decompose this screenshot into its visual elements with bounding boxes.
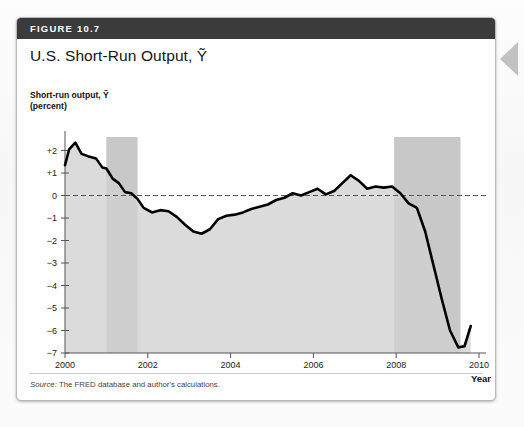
x-tick-label: 2004: [221, 360, 241, 370]
source-note: Source: The FRED database and author's c…: [30, 380, 220, 389]
x-tick-label: 2002: [138, 360, 158, 370]
x-tick-label: 2006: [303, 360, 323, 370]
figure-container: FIGURE 10.7 U.S. Short-Run Output, Ỹ Sho…: [16, 17, 496, 401]
x-axis-title: Year: [471, 373, 491, 384]
x-tick-label: 2000: [55, 360, 75, 370]
line-chart: +2+10−1−2−3−4−5−6−7200020022004200620082…: [17, 18, 495, 400]
x-tick-label: 2008: [386, 360, 406, 370]
y-tick-label: 0: [52, 191, 57, 201]
y-tick-label: −6: [47, 326, 57, 336]
y-tick-label: −4: [47, 281, 57, 291]
y-tick-label: −2: [47, 236, 57, 246]
source-divider: [30, 373, 482, 374]
y-tick-label: +2: [47, 146, 57, 156]
y-tick-label: −7: [47, 348, 57, 358]
page-nav-arrow-icon[interactable]: [500, 42, 518, 76]
x-tick-label: 2010: [469, 360, 489, 370]
source-text: The FRED database and author's calculati…: [57, 380, 220, 389]
chart-plot-area: +2+10−1−2−3−4−5−6−7200020022004200620082…: [17, 18, 495, 400]
y-tick-label: −5: [47, 303, 57, 313]
y-tick-label: −1: [47, 213, 57, 223]
y-tick-label: −3: [47, 258, 57, 268]
recession-band-overlay: [106, 137, 137, 353]
y-tick-label: +1: [47, 168, 57, 178]
source-prefix: Source:: [30, 380, 57, 389]
